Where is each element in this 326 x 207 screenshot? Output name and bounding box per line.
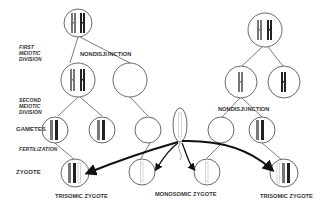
right-daughter-cell-2 xyxy=(268,66,300,98)
label-fertilization: FERTILIZATION xyxy=(19,147,57,152)
left-parent-cell xyxy=(64,9,92,37)
label-first-meiotic-3: DIVISION xyxy=(19,57,42,62)
monosomic-zygote-left xyxy=(129,159,155,185)
label-left-trisomic-zygote: TRISOMIC ZYGOTE xyxy=(55,193,108,199)
nondisjunction-diagram xyxy=(0,0,326,207)
left-gamete-2 xyxy=(89,117,115,143)
label-second-meiotic-3: DIVISION xyxy=(19,110,42,115)
right-trisomic-zygote xyxy=(270,159,298,187)
left-gamete-empty-1 xyxy=(135,117,161,143)
right-gamete-double xyxy=(249,117,275,143)
label-right-trisomic-zygote: TRISOMIC ZYGOTE xyxy=(260,193,313,199)
left-trisomic-zygote xyxy=(61,159,89,187)
left-gamete-1 xyxy=(42,117,68,143)
left-daughter-cell-empty xyxy=(113,63,147,97)
arrow-to-monosomic-right xyxy=(182,143,193,168)
right-gamete-empty xyxy=(208,117,234,143)
label-zygote: ZYGOTE xyxy=(16,169,41,175)
right-daughter-cell-1 xyxy=(225,66,257,98)
monosomic-zygote-right xyxy=(194,159,220,185)
label-monosomic-zygote: MONOSOMIC ZYGOTE xyxy=(155,191,216,197)
label-right-nondisjunction: NONDISJUNCTION xyxy=(218,106,269,112)
label-left-nondisjunction: NONDISJUNCTION xyxy=(80,51,131,57)
arrow-to-right-trisomic xyxy=(182,141,270,168)
left-daughter-cell-hh xyxy=(61,63,95,97)
label-gametes: GAMETES xyxy=(16,126,46,132)
right-parent-cell xyxy=(248,13,282,47)
fertilization-arrows xyxy=(90,141,270,172)
